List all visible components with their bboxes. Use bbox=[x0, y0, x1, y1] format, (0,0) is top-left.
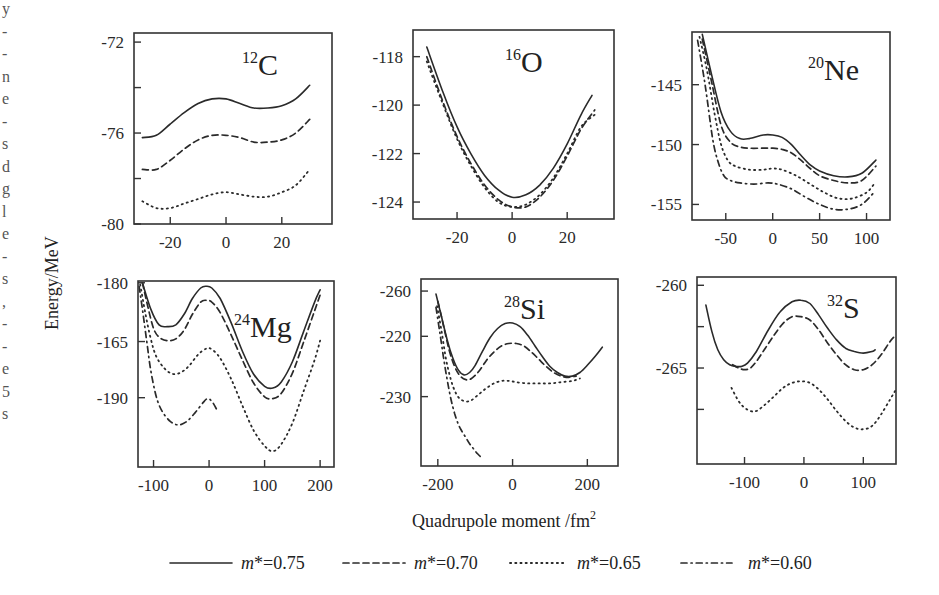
line-dotted bbox=[427, 62, 595, 208]
panel-si: -2000200-260-220-23028Si bbox=[380, 279, 618, 494]
series-group bbox=[142, 85, 309, 208]
line-dashed bbox=[427, 57, 595, 208]
panel-c: -20020-72-76-8012C bbox=[101, 33, 332, 252]
panel-mg: -1000100200-180-165-19024Mg bbox=[97, 274, 334, 495]
x-tick-label: 0 bbox=[508, 475, 517, 494]
legend-label: m*=0.75 bbox=[241, 553, 305, 573]
mass-number: 12 bbox=[242, 49, 258, 66]
y-tick-label: -150 bbox=[651, 136, 682, 155]
margin-fragment: - bbox=[2, 23, 7, 40]
margin-fragment: y bbox=[2, 0, 10, 18]
line-dotted bbox=[732, 381, 897, 429]
legend-label: m*=0.60 bbox=[748, 553, 812, 573]
mass-number: 28 bbox=[504, 293, 520, 310]
line-dashed bbox=[733, 316, 896, 370]
y-tick-label: -260 bbox=[656, 276, 687, 295]
margin-fragment: e bbox=[2, 225, 9, 242]
legend-label: m*=0.70 bbox=[414, 553, 478, 573]
plot-frame bbox=[692, 32, 890, 220]
legend-item-solid: m*=0.75 bbox=[170, 553, 305, 573]
x-tick-label: -100 bbox=[729, 473, 760, 492]
y-axis-title: Energy/MeV bbox=[42, 236, 62, 330]
y-tick-label: -180 bbox=[97, 274, 128, 293]
element-symbol: Ne bbox=[824, 53, 859, 86]
margin-fragment: e bbox=[2, 90, 9, 107]
y-tick-label: -165 bbox=[97, 333, 128, 352]
y-tick-label: -145 bbox=[651, 76, 682, 95]
x-axis-title-text: Quadrupole moment /fm bbox=[412, 511, 590, 531]
margin-fragment: g bbox=[2, 180, 10, 198]
line-dotted bbox=[140, 285, 320, 452]
nucleus-label: 16O bbox=[505, 45, 543, 78]
line-dashdot bbox=[436, 307, 481, 457]
element-symbol: Mg bbox=[250, 310, 292, 343]
x-tick-label: 100 bbox=[252, 476, 278, 495]
margin-fragment: - bbox=[2, 338, 7, 355]
element-symbol: C bbox=[258, 48, 278, 81]
x-tick-label: -100 bbox=[138, 476, 169, 495]
legend-item-dashdot: m*=0.60 bbox=[681, 553, 812, 573]
x-tick-label: -20 bbox=[159, 233, 182, 252]
series-group bbox=[427, 47, 595, 208]
x-tick-label: 50 bbox=[811, 229, 828, 248]
x-tick-label: -200 bbox=[422, 475, 453, 494]
margin-fragment: , bbox=[2, 293, 6, 310]
margin-fragment: n bbox=[2, 68, 10, 85]
margin-fragment: - bbox=[2, 45, 7, 62]
left-margin-text-fragments: y--ne-sdgle-s,--e5s bbox=[2, 0, 10, 422]
margin-fragment: s bbox=[2, 270, 8, 287]
y-tick-label: -260 bbox=[380, 282, 411, 301]
x-tick-label: 0 bbox=[205, 476, 214, 495]
y-tick-label: -76 bbox=[101, 124, 124, 143]
x-tick-label: -20 bbox=[446, 228, 469, 247]
nucleus-label: 32S bbox=[827, 291, 860, 324]
legend-item-dotted: m*=0.65 bbox=[510, 553, 641, 573]
panel-s: -1000100-260-26532S bbox=[656, 276, 896, 492]
x-tick-label: 0 bbox=[222, 233, 231, 252]
nucleus-label: 12C bbox=[242, 48, 278, 81]
y-tick-label: -155 bbox=[651, 195, 682, 214]
x-tick-label: 100 bbox=[854, 229, 880, 248]
x-tick-label: 0 bbox=[508, 228, 517, 247]
margin-fragment: - bbox=[2, 315, 7, 332]
line-dotted bbox=[142, 169, 309, 208]
line-solid bbox=[142, 85, 309, 137]
mass-number: 32 bbox=[827, 292, 843, 309]
nucleus-label: 28Si bbox=[504, 292, 545, 325]
mass-number: 20 bbox=[808, 54, 824, 71]
element-symbol: S bbox=[843, 291, 860, 324]
nucleus-label: 24Mg bbox=[234, 310, 292, 343]
margin-fragment: e bbox=[2, 360, 9, 377]
series-group bbox=[706, 300, 896, 429]
y-tick-label: -72 bbox=[101, 33, 124, 52]
line-dotted bbox=[437, 306, 580, 401]
line-dashed bbox=[142, 283, 320, 399]
margin-fragment: s bbox=[2, 135, 8, 152]
y-tick-label: -190 bbox=[97, 389, 128, 408]
y-tick-label: -265 bbox=[656, 359, 687, 378]
legend-label: m*=0.65 bbox=[577, 553, 641, 573]
margin-fragment: l bbox=[2, 203, 7, 220]
x-tick-label: 20 bbox=[273, 233, 290, 252]
plot-frame bbox=[697, 277, 896, 464]
panels: -20020-72-76-8012C-20020-118-120-122-124… bbox=[97, 30, 896, 495]
legend-item-dashed: m*=0.70 bbox=[343, 553, 478, 573]
x-axis-title: Quadrupole moment /fm2 bbox=[412, 508, 596, 531]
x-tick-label: 0 bbox=[800, 473, 809, 492]
y-tick-label: -220 bbox=[380, 327, 411, 346]
y-tick-label: -122 bbox=[372, 145, 403, 164]
series-group bbox=[139, 283, 320, 451]
legend: m*=0.75m*=0.70m*=0.65m*=0.60 bbox=[170, 553, 812, 573]
margin-fragment: - bbox=[2, 113, 7, 130]
mass-number: 24 bbox=[234, 311, 250, 328]
y-tick-label: -230 bbox=[380, 388, 411, 407]
panel-ne: -50050100-145-150-15520Ne bbox=[651, 32, 890, 248]
x-axis-title-superscript: 2 bbox=[590, 508, 596, 522]
x-tick-label: 200 bbox=[307, 476, 333, 495]
x-tick-label: 0 bbox=[768, 229, 777, 248]
x-tick-label: 200 bbox=[575, 475, 601, 494]
plot-frame bbox=[138, 281, 334, 467]
y-tick-label: -80 bbox=[101, 215, 124, 234]
margin-fragment: 5 bbox=[2, 383, 10, 400]
x-tick-label: 100 bbox=[851, 473, 877, 492]
